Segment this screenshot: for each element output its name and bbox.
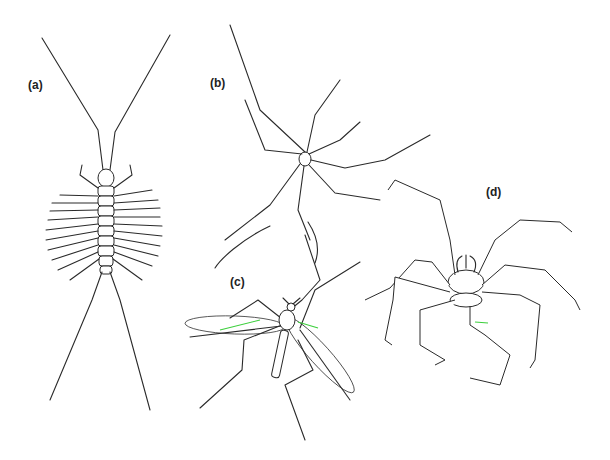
panel-label-d: (d) [486, 185, 501, 199]
panel-label-b: (b) [210, 76, 225, 90]
panel-label-a: (a) [28, 78, 43, 92]
panel-c-cranefly [185, 222, 361, 440]
panel-d-arachnid [365, 180, 580, 385]
panel-a-centipede [42, 35, 170, 410]
figure-canvas: (a) (b) (c) (d) [0, 0, 610, 460]
panel-label-c: (c) [230, 275, 245, 289]
drawings [0, 0, 610, 460]
panel-b-harvestman [225, 25, 430, 240]
